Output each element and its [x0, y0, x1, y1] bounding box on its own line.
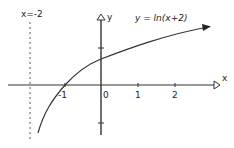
y-axis-arrow-icon: [97, 14, 105, 20]
x-tick-label: 2: [172, 90, 178, 100]
x-tick-label: 1: [135, 90, 141, 100]
origin-label: 0: [103, 90, 109, 100]
y-axis-label: y: [107, 12, 113, 22]
asymptote-label: x=-2: [21, 9, 43, 19]
curve-arrow-icon: [202, 24, 211, 31]
function-curve: [38, 27, 208, 133]
function-graph: x=-2 x y -1 0 1 2 y = ln(x+2): [0, 0, 234, 148]
x-axis-arrow-icon: [214, 81, 220, 89]
function-label: y = ln(x+2): [134, 13, 187, 23]
x-axis-label: x: [222, 73, 228, 83]
